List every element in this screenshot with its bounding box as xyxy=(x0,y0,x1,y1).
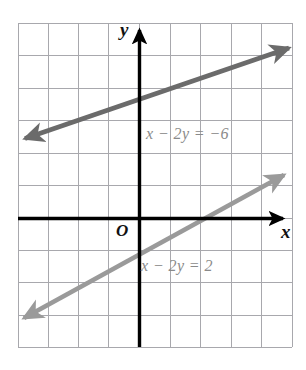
graph-canvas xyxy=(0,0,306,370)
x-axis-label: x xyxy=(281,222,291,241)
upper-line-equation-label: x − 2y = −6 xyxy=(146,126,229,142)
line-lower-equation xyxy=(24,175,284,318)
coordinate-plane-figure: y x O x − 2y = −6 x − 2y = 2 xyxy=(0,0,306,370)
lower-line-equation-label: x − 2y = 2 xyxy=(141,258,213,274)
y-axis-label: y xyxy=(120,20,128,39)
origin-label: O xyxy=(116,222,128,239)
